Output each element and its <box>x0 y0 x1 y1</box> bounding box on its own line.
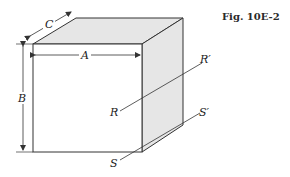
label-r: R <box>109 106 118 119</box>
label-b: B <box>17 92 26 105</box>
label-s-prime: S′ <box>199 106 210 119</box>
label-s: S <box>110 157 118 170</box>
box-diagram: C A B R R′ S S′ <box>0 0 290 177</box>
label-r-prime: R′ <box>199 53 211 66</box>
label-a: A <box>80 49 89 62</box>
label-c: C <box>45 18 54 31</box>
